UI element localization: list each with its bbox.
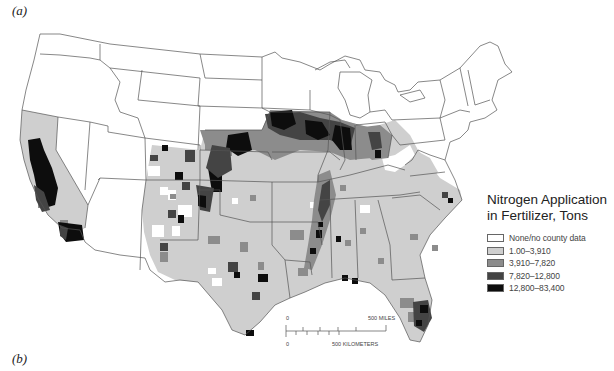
scale-km-zero: 0 bbox=[286, 341, 289, 347]
scale-bar-ticks bbox=[284, 321, 404, 341]
legend-item-class3: 7,820–12,800 bbox=[487, 270, 614, 283]
map-legend: Nitrogen Application in Fertilizer, Tons… bbox=[487, 192, 614, 295]
legend-swatch-none bbox=[487, 234, 504, 242]
legend-swatch-class3 bbox=[487, 272, 504, 280]
legend-swatch-class2 bbox=[487, 259, 504, 267]
scale-bar: 0 500 MILES 0 500 KILOMETERS bbox=[284, 313, 404, 353]
legend-title-line2: in Fertilizer, Tons bbox=[487, 208, 614, 224]
legend-swatch-class4 bbox=[487, 284, 504, 292]
legend-item-class2: 3,910–7,820 bbox=[487, 257, 614, 270]
legend-label-class4: 12,800–83,400 bbox=[509, 283, 564, 293]
legend-label-none: None/no county data bbox=[509, 233, 586, 243]
legend-label-class3: 7,820–12,800 bbox=[509, 271, 560, 281]
legend-swatch-class1 bbox=[487, 247, 504, 255]
legend-label-class2: 3,910–7,820 bbox=[509, 258, 555, 268]
legend-title: Nitrogen Application in Fertilizer, Tons bbox=[487, 192, 614, 224]
legend-item-class4: 12,800–83,400 bbox=[487, 282, 614, 295]
legend-title-line1: Nitrogen Application bbox=[487, 192, 614, 208]
legend-item-class1: 1.00–3,910 bbox=[487, 245, 614, 258]
panel-label-b: (b) bbox=[12, 351, 27, 367]
scale-km-label: 500 KILOMETERS bbox=[332, 341, 378, 347]
legend-label-class1: 1.00–3,910 bbox=[509, 246, 551, 256]
legend-item-none: None/no county data bbox=[487, 232, 614, 245]
